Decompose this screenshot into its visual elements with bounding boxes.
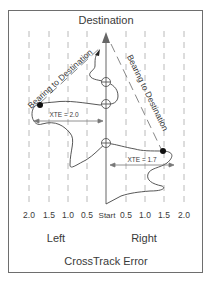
waypoint-crosshair-icon <box>102 139 111 148</box>
position-dot-right <box>160 148 166 154</box>
tick-label: 1.0 <box>62 210 74 220</box>
tick-label: 1.5 <box>158 210 170 220</box>
xte-label-right: XTE = 1.7 <box>127 156 156 163</box>
waypoint-crosshair-icon <box>102 100 111 109</box>
tick-label: 1.0 <box>139 210 151 220</box>
tick-label: 0.5 <box>81 210 93 220</box>
tick-label: 2.0 <box>23 210 35 220</box>
xte-arrow-left <box>34 119 103 123</box>
tick-label: 2.0 <box>178 210 190 220</box>
xte-label-left: XTE = 2.0 <box>49 111 78 118</box>
right-label: Right <box>131 232 157 244</box>
track-path <box>32 54 172 204</box>
axis-title: CrossTrack Error <box>64 255 148 267</box>
axis-tick-labels: 2.0 1.5 1.0 0.5 Start 0.5 1.0 1.5 2.0 <box>23 210 190 220</box>
tick-label-start: Start <box>99 211 117 220</box>
destination-arrow-icon <box>102 32 110 43</box>
bearing-label-left: Bearing to Destination <box>26 47 95 111</box>
tick-label: 0.5 <box>120 210 132 220</box>
waypoint-crosshair-icon <box>102 78 111 87</box>
tick-label: 1.5 <box>43 210 55 220</box>
crosstrack-error-diagram: Destination Bearing to Destination Beari… <box>0 0 213 283</box>
left-label: Left <box>47 232 65 244</box>
destination-label: Destination <box>78 14 133 26</box>
